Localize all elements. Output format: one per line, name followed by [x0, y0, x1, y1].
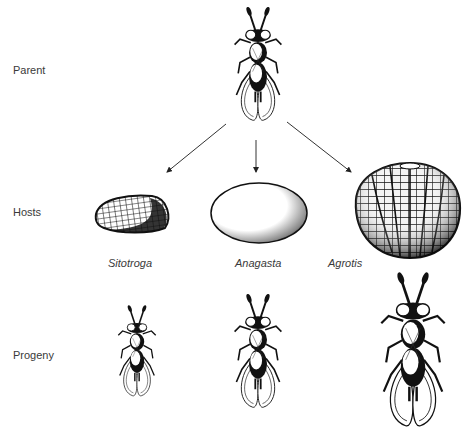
anagasta-egg-illustration	[211, 183, 307, 243]
arrow-to-agrotis	[287, 122, 351, 172]
progeny-wasp-anagasta	[235, 293, 282, 407]
progeny-wasp-agrotis	[381, 271, 444, 426]
arrow-to-sitotroga	[167, 124, 226, 172]
figure-illustration	[0, 0, 471, 446]
sitotroga-egg-illustration	[96, 196, 169, 233]
agrotis-egg-illustration	[356, 163, 460, 258]
parent-wasp-illustration	[235, 6, 282, 120]
progeny-wasp-sitotroga	[118, 305, 155, 396]
